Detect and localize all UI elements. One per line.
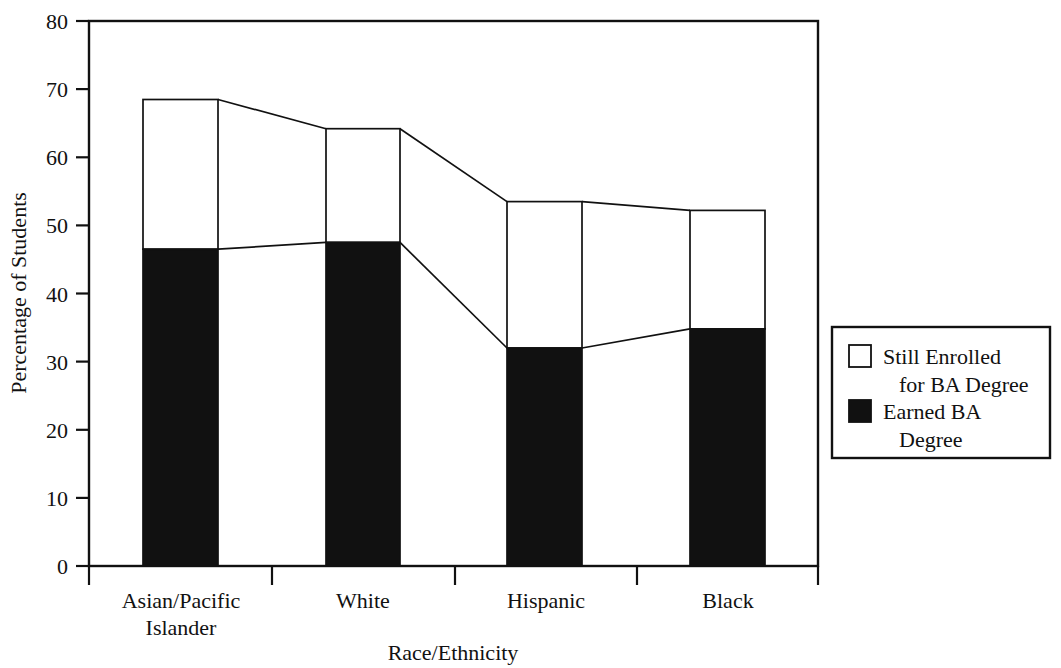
x-axis-title: Race/Ethnicity (388, 640, 519, 665)
legend-swatch-still-enrolled-icon (849, 345, 871, 367)
bar-segment-earned-ba[interactable] (507, 348, 582, 566)
bar-group-white[interactable] (326, 129, 400, 566)
legend-label-still-enrolled-line1: Still Enrolled (883, 344, 1001, 369)
connector-bands (218, 100, 690, 349)
chart-legend: Still Enrolled for BA Degree Earned BA D… (832, 327, 1050, 458)
y-axis-tick-labels: 80 70 60 50 40 30 20 10 0 (46, 9, 68, 579)
legend-label-earned-ba-line1: Earned BA (883, 399, 981, 424)
bar-segment-still-enrolled[interactable] (507, 202, 582, 348)
x-tick-label-asian-pacific-islander-line1: Asian/Pacific (122, 588, 241, 613)
bar-segment-earned-ba[interactable] (143, 249, 218, 566)
y-tick-label: 20 (46, 418, 68, 443)
y-tick-label: 0 (57, 554, 68, 579)
bar-group-hispanic[interactable] (507, 202, 582, 566)
x-axis-title-text: Race/Ethnicity (388, 640, 519, 665)
x-tick-label-hispanic: Hispanic (507, 588, 585, 613)
bar-segment-still-enrolled[interactable] (690, 210, 765, 329)
legend-swatch-earned-ba-icon (849, 400, 871, 422)
y-tick-label: 60 (46, 145, 68, 170)
x-tick-label-asian-pacific-islander-line2: Islander (146, 615, 218, 640)
bar-group-black[interactable] (690, 210, 765, 566)
y-tick-label: 50 (46, 213, 68, 238)
y-tick-label: 70 (46, 77, 68, 102)
x-tick-label-white: White (336, 588, 390, 613)
y-tick-label: 30 (46, 350, 68, 375)
bar-segment-still-enrolled[interactable] (143, 100, 218, 250)
y-tick-label: 80 (46, 9, 68, 34)
x-axis-ticks (89, 566, 818, 585)
legend-label-earned-ba-line2: Degree (899, 427, 963, 452)
chart-figure: 80 70 60 50 40 30 20 10 0 Percentage of … (0, 0, 1061, 668)
x-tick-label-black: Black (702, 588, 753, 613)
y-axis-ticks (76, 21, 89, 566)
stacked-bar-chart: 80 70 60 50 40 30 20 10 0 Percentage of … (0, 0, 1061, 668)
legend-label-still-enrolled-line2: for BA Degree (899, 372, 1029, 397)
bar-group-asian-pacific-islander[interactable] (143, 100, 218, 567)
y-tick-label: 10 (46, 486, 68, 511)
y-tick-label: 40 (46, 282, 68, 307)
bar-segment-earned-ba[interactable] (326, 242, 400, 566)
y-axis-title: Percentage of Students (6, 192, 31, 394)
y-axis-title-text: Percentage of Students (6, 192, 31, 394)
x-axis-category-labels: Asian/Pacific Islander White Hispanic Bl… (122, 588, 754, 640)
bar-segment-earned-ba[interactable] (690, 329, 765, 566)
bar-segment-still-enrolled[interactable] (326, 129, 400, 243)
